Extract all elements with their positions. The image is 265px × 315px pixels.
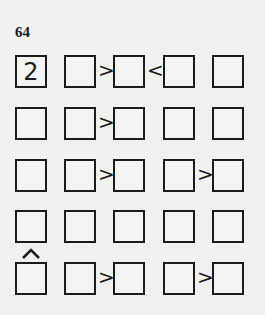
grid-cell-r1c2[interactable]: [113, 107, 145, 140]
grid-cell-r3c4[interactable]: [212, 210, 244, 243]
grid-cell-r4c1[interactable]: [64, 262, 96, 295]
grid-cell-r1c1[interactable]: [64, 107, 96, 140]
grid-cell-r0c4[interactable]: [212, 55, 244, 88]
grid-cell-r4c3[interactable]: [163, 262, 195, 295]
grid-cell-r2c3[interactable]: [163, 159, 195, 192]
caret-up-icon-c0-r3r4: [21, 248, 41, 260]
grid-cell-r4c2[interactable]: [113, 262, 145, 295]
grid-cell-r1c3[interactable]: [163, 107, 195, 140]
grid-cell-r2c1[interactable]: [64, 159, 96, 192]
grid-cell-r4c0[interactable]: [15, 262, 47, 295]
grid-cell-r1c4[interactable]: [212, 107, 244, 140]
grid-cell-r1c0[interactable]: [15, 107, 47, 140]
grid-cell-r3c2[interactable]: [113, 210, 145, 243]
grid-cell-r2c2[interactable]: [113, 159, 145, 192]
grid-cell-r0c1[interactable]: [64, 55, 96, 88]
grid-cell-r4c4[interactable]: [212, 262, 244, 295]
grid-cell-r3c3[interactable]: [163, 210, 195, 243]
puzzle-number: 64: [15, 24, 30, 41]
grid-cell-r2c0[interactable]: [15, 159, 47, 192]
grid-cell-r0c3[interactable]: [163, 55, 195, 88]
grid-cell-r0c2[interactable]: [113, 55, 145, 88]
grid-cell-r0c0[interactable]: 2: [15, 55, 47, 88]
less-than-r0-c2c3: <: [147, 60, 164, 80]
grid-cell-r2c4[interactable]: [212, 159, 244, 192]
grid-cell-r3c0[interactable]: [15, 210, 47, 243]
grid-cell-r3c1[interactable]: [64, 210, 96, 243]
